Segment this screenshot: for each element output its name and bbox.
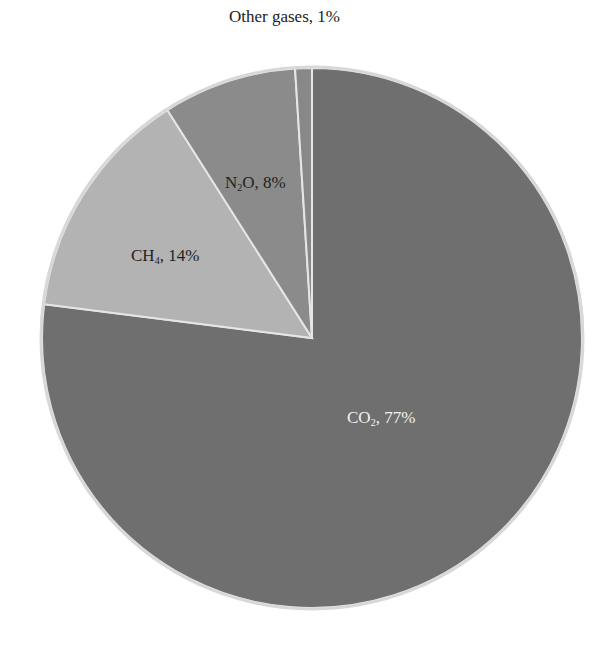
label-other: Other gases, 1% [229, 8, 340, 25]
label-co2-rest: , 77% [376, 408, 416, 427]
label-n2o-rest: O, 8% [242, 173, 285, 192]
label-co2: CO2, 77% [347, 409, 415, 428]
pie-slices [41, 67, 583, 609]
label-other-text: Other gases, 1% [229, 7, 340, 26]
label-n2o-base: N [225, 173, 237, 192]
pie-chart [0, 0, 615, 660]
label-n2o: N2O, 8% [225, 174, 286, 193]
label-ch4: CH4, 14% [131, 247, 199, 266]
label-co2-base: CO [347, 408, 371, 427]
label-ch4-base: CH [131, 246, 155, 265]
label-ch4-rest: , 14% [160, 246, 200, 265]
